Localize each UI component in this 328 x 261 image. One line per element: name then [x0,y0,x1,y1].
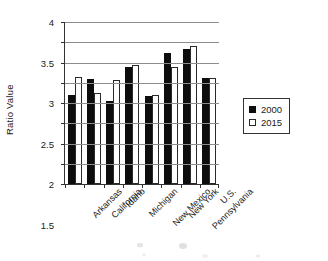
y-axis-title: Ratio Value [2,58,16,162]
bar-2000[interactable] [68,95,75,184]
legend-label-2000: 2000 [261,105,282,115]
y-axis-tick-label: 3 [49,99,54,109]
y-axis-tick-label: 1.5 [41,221,54,231]
y-axis-tick: 0.5 [61,164,65,165]
y-axis-tick: 4 [61,22,65,23]
legend-item-2000[interactable]: 2000 [249,103,282,116]
y-axis-tick: 1.5 [61,123,65,124]
bar-2015[interactable] [209,78,216,184]
bar-2000[interactable] [202,78,209,184]
y-axis-tick: 2.5 [61,83,65,84]
y-axis-tick: 3 [61,63,65,64]
legend-swatch-2015-icon [249,119,256,126]
plot-area: 43.532.521.510.50 [64,22,219,185]
bar-chart: Ratio Value 43.532.521.510.50 ArkansasCa… [0,0,328,261]
bar-2000[interactable] [125,67,132,184]
bar-2015[interactable] [171,67,178,184]
x-axis-label: Idaho [125,187,147,209]
y-axis-tick-label: 2.5 [41,140,54,150]
legend-label-2015: 2015 [261,118,282,128]
y-axis-tick: 1 [61,144,65,145]
bar-2000[interactable] [145,96,152,184]
y-axis-tick-label: 3.5 [41,59,54,69]
gridline [65,42,219,43]
legend: 2000 2015 [243,98,290,134]
x-axis-labels: ArkansasCaliforniaIdahoMichiganNew Mexic… [64,187,219,257]
y-axis-tick: 3.5 [61,42,65,43]
x-axis-label: Michigan [148,187,180,219]
gridline [65,123,219,124]
y-axis-tick: 0 [61,184,65,185]
gridline [65,144,219,145]
bar-2000[interactable] [87,79,94,184]
bar-2015[interactable] [113,80,120,184]
gridline [65,83,219,84]
bar-2000[interactable] [106,101,113,184]
bar-2015[interactable] [152,95,159,185]
gridline [65,63,219,64]
legend-swatch-2000-icon [249,106,256,113]
y-axis-tick: 2 [61,103,65,104]
bar-2015[interactable] [94,93,101,184]
y-axis-tick-label: 2 [49,180,54,190]
gridline [65,22,219,23]
gridline [65,103,219,104]
gridline [65,164,219,165]
y-axis-tick-label: 4 [49,18,54,28]
bar-2015[interactable] [75,77,82,184]
legend-item-2015[interactable]: 2015 [249,116,282,129]
